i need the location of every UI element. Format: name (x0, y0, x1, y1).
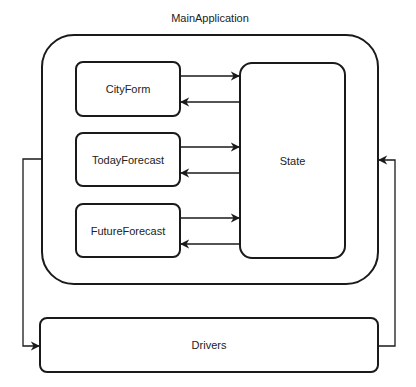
futureforecast-label: FutureForecast (76, 204, 180, 257)
cityform-label: CityForm (76, 62, 180, 116)
todayforecast-label: TodayForecast (76, 133, 180, 186)
state-label: State (240, 63, 345, 258)
arrow-drivers-to-mainapplication (378, 160, 395, 346)
drivers-label: Drivers (40, 318, 378, 372)
main-application-label: MainApplication (110, 10, 310, 26)
